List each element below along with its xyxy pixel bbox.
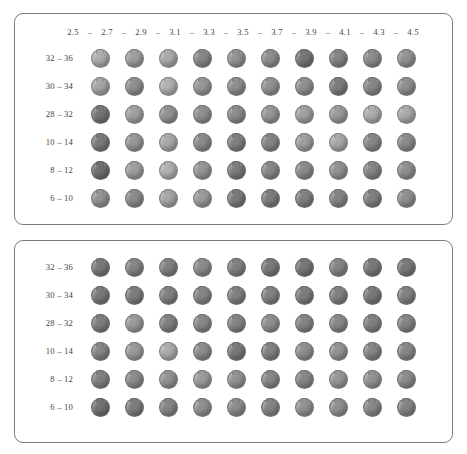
dot-cell[interactable] — [389, 49, 423, 68]
sphere-marker[interactable] — [125, 77, 144, 96]
dot-cell[interactable] — [253, 77, 287, 96]
sphere-marker[interactable] — [227, 258, 246, 277]
dot-cell[interactable] — [321, 286, 355, 305]
sphere-marker[interactable] — [91, 398, 110, 417]
dot-cell[interactable] — [253, 189, 287, 208]
sphere-marker[interactable] — [295, 314, 314, 333]
dot-cell[interactable] — [219, 77, 253, 96]
dot-cell[interactable] — [83, 77, 117, 96]
sphere-marker[interactable] — [159, 342, 178, 361]
dot-cell[interactable] — [355, 314, 389, 333]
sphere-marker[interactable] — [125, 105, 144, 124]
dot-cell[interactable] — [185, 398, 219, 417]
dot-cell[interactable] — [287, 189, 321, 208]
sphere-marker[interactable] — [125, 258, 144, 277]
sphere-marker[interactable] — [125, 342, 144, 361]
dot-cell[interactable] — [389, 133, 423, 152]
sphere-marker[interactable] — [363, 342, 382, 361]
dot-cell[interactable] — [185, 258, 219, 277]
sphere-marker[interactable] — [397, 49, 416, 68]
dot-cell[interactable] — [321, 133, 355, 152]
sphere-marker[interactable] — [193, 398, 212, 417]
dot-cell[interactable] — [117, 370, 151, 389]
dot-cell[interactable] — [117, 314, 151, 333]
sphere-marker[interactable] — [91, 105, 110, 124]
dot-cell[interactable] — [253, 398, 287, 417]
sphere-marker[interactable] — [261, 314, 280, 333]
dot-cell[interactable] — [117, 105, 151, 124]
dot-cell[interactable] — [151, 370, 185, 389]
sphere-marker[interactable] — [227, 314, 246, 333]
sphere-marker[interactable] — [397, 286, 416, 305]
sphere-marker[interactable] — [159, 398, 178, 417]
sphere-marker[interactable] — [295, 105, 314, 124]
dot-cell[interactable] — [321, 77, 355, 96]
dot-cell[interactable] — [355, 161, 389, 180]
dot-cell[interactable] — [287, 370, 321, 389]
dot-cell[interactable] — [151, 161, 185, 180]
dot-cell[interactable] — [355, 286, 389, 305]
sphere-marker[interactable] — [397, 398, 416, 417]
sphere-marker[interactable] — [159, 314, 178, 333]
sphere-marker[interactable] — [329, 314, 348, 333]
sphere-marker[interactable] — [261, 77, 280, 96]
sphere-marker[interactable] — [227, 342, 246, 361]
dot-cell[interactable] — [185, 77, 219, 96]
sphere-marker[interactable] — [363, 133, 382, 152]
dot-cell[interactable] — [151, 105, 185, 124]
sphere-marker[interactable] — [227, 133, 246, 152]
dot-cell[interactable] — [185, 286, 219, 305]
dot-cell[interactable] — [185, 342, 219, 361]
sphere-marker[interactable] — [329, 398, 348, 417]
dot-cell[interactable] — [219, 314, 253, 333]
sphere-marker[interactable] — [397, 105, 416, 124]
dot-cell[interactable] — [355, 133, 389, 152]
sphere-marker[interactable] — [227, 77, 246, 96]
sphere-marker[interactable] — [363, 49, 382, 68]
dot-cell[interactable] — [83, 161, 117, 180]
sphere-marker[interactable] — [329, 342, 348, 361]
sphere-marker[interactable] — [159, 161, 178, 180]
dot-cell[interactable] — [185, 133, 219, 152]
sphere-marker[interactable] — [227, 49, 246, 68]
sphere-marker[interactable] — [397, 342, 416, 361]
dot-cell[interactable] — [355, 258, 389, 277]
sphere-marker[interactable] — [329, 189, 348, 208]
dot-cell[interactable] — [151, 133, 185, 152]
dot-cell[interactable] — [321, 370, 355, 389]
sphere-marker[interactable] — [363, 370, 382, 389]
sphere-marker[interactable] — [227, 105, 246, 124]
dot-cell[interactable] — [185, 49, 219, 68]
dot-cell[interactable] — [253, 286, 287, 305]
dot-cell[interactable] — [117, 398, 151, 417]
sphere-marker[interactable] — [193, 286, 212, 305]
sphere-marker[interactable] — [91, 49, 110, 68]
dot-cell[interactable] — [151, 398, 185, 417]
dot-cell[interactable] — [389, 286, 423, 305]
dot-cell[interactable] — [117, 258, 151, 277]
dot-cell[interactable] — [389, 105, 423, 124]
dot-cell[interactable] — [287, 398, 321, 417]
dot-cell[interactable] — [83, 133, 117, 152]
dot-cell[interactable] — [389, 161, 423, 180]
sphere-marker[interactable] — [397, 133, 416, 152]
sphere-marker[interactable] — [363, 314, 382, 333]
dot-cell[interactable] — [219, 342, 253, 361]
dot-cell[interactable] — [253, 49, 287, 68]
dot-cell[interactable] — [253, 105, 287, 124]
dot-cell[interactable] — [219, 189, 253, 208]
sphere-marker[interactable] — [159, 258, 178, 277]
dot-cell[interactable] — [185, 105, 219, 124]
sphere-marker[interactable] — [261, 189, 280, 208]
sphere-marker[interactable] — [329, 370, 348, 389]
sphere-marker[interactable] — [159, 77, 178, 96]
sphere-marker[interactable] — [397, 258, 416, 277]
dot-cell[interactable] — [287, 286, 321, 305]
sphere-marker[interactable] — [397, 189, 416, 208]
dot-cell[interactable] — [355, 49, 389, 68]
dot-cell[interactable] — [389, 189, 423, 208]
dot-cell[interactable] — [117, 161, 151, 180]
sphere-marker[interactable] — [329, 49, 348, 68]
dot-cell[interactable] — [389, 258, 423, 277]
dot-cell[interactable] — [219, 286, 253, 305]
